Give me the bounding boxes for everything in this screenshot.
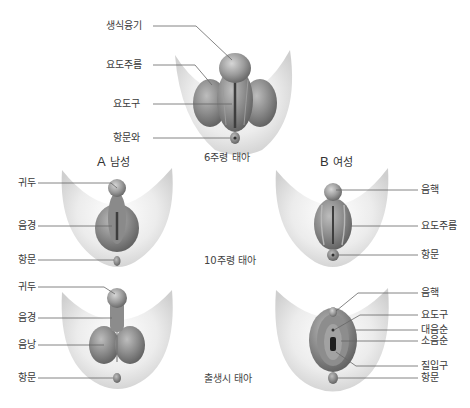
label-female10-clitoris: 음핵 (421, 184, 439, 196)
stage-label-week10: 10주령 태아 (204, 255, 256, 267)
column-header-male: A남성 (97, 155, 130, 169)
column-header-female: B여성 (320, 155, 353, 169)
label-female-birth-labia-minora: 소음순 (421, 335, 448, 347)
illustration-canvas (0, 0, 470, 408)
label-male-birth-scrotum: 음낭 (18, 339, 36, 351)
label-male-birth-anus: 항문 (18, 372, 36, 384)
label-female-birth-vaginal-opening: 질입구 (421, 360, 448, 372)
label-urethral-fold: 요도주름 (106, 59, 142, 71)
label-genital-tubercle: 생식융기 (106, 20, 142, 32)
male-birth-figure (62, 288, 173, 389)
week6-figure (175, 50, 292, 155)
label-male-birth-glans: 귀두 (18, 281, 36, 293)
female-letter: B (320, 154, 329, 169)
label-female-birth-clitoris: 음핵 (421, 287, 439, 299)
label-urethral-groove: 요도구 (113, 98, 140, 110)
female-birth-figure (275, 288, 388, 392)
male-label: 남성 (110, 156, 130, 169)
label-female-birth-urethral-opening: 요도구 (421, 309, 448, 321)
label-female-birth-anus: 항문 (421, 372, 439, 384)
label-male10-glans: 귀두 (18, 177, 36, 189)
male-letter: A (97, 154, 106, 169)
label-male-birth-penis: 음경 (18, 312, 36, 324)
label-female10-anus: 항문 (421, 249, 439, 261)
label-male10-penis: 음경 (18, 220, 36, 232)
label-anal-pit: 항문와 (113, 132, 140, 144)
stage-label-birth: 출생시 태아 (204, 373, 252, 385)
label-female10-urethral-fold: 요도주름 (421, 220, 457, 232)
stage-label-week6: 6주령 태아 (204, 152, 250, 164)
female-week10-figure (276, 168, 389, 267)
label-male10-anus: 항문 (18, 254, 36, 266)
female-label: 여성 (333, 156, 353, 169)
